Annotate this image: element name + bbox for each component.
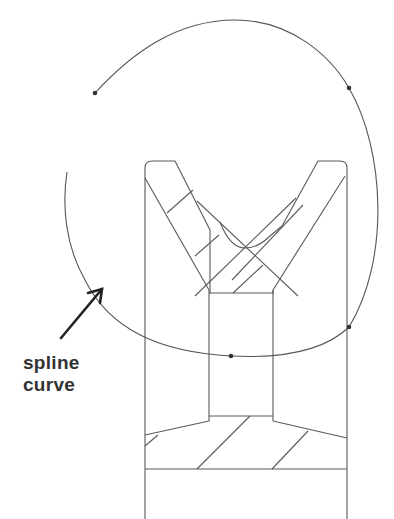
rim-right-taper [273, 416, 347, 438]
hatch-line [272, 431, 308, 469]
hatch-line [145, 435, 158, 446]
groove-bottom-arc [220, 222, 282, 248]
pulley-right-outline [282, 161, 347, 519]
pulley-left-groove-edge [145, 178, 209, 290]
hatch-line [167, 190, 193, 213]
belt-line-left [197, 201, 298, 296]
hatch-line [233, 265, 263, 293]
control-point[interactable] [229, 354, 234, 359]
pulley-right-groove-edge [273, 176, 345, 294]
hatch-line [232, 205, 303, 280]
cad-drawing [0, 0, 394, 519]
hatch-line [195, 235, 219, 256]
annotation-label-line2: curve [23, 374, 75, 396]
annotation-label-line1: spline [23, 352, 80, 374]
control-point[interactable] [347, 86, 352, 91]
hatch-line [197, 416, 250, 469]
control-point[interactable] [93, 91, 98, 96]
arrow-shaft [61, 289, 102, 338]
spline-curve [65, 20, 378, 356]
control-point[interactable] [347, 325, 352, 330]
rim-left-taper [145, 416, 209, 435]
